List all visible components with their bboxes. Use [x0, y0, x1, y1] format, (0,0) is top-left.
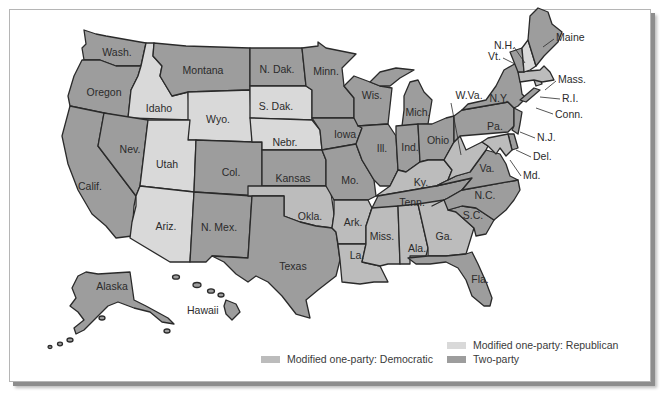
label-ri: R.I. [562, 92, 578, 104]
label-ind: Ind. [401, 141, 419, 153]
label-ga: Ga. [436, 230, 453, 242]
state-nj[interactable] [512, 108, 522, 134]
hawaii-island[interactable] [218, 293, 224, 297]
label-ny: N.Y. [489, 92, 508, 104]
label-ill: Ill. [377, 142, 388, 154]
label-conn: Conn. [555, 108, 583, 120]
label-del: Del. [533, 150, 552, 162]
legend-swatch-democratic [261, 356, 280, 363]
label-minn: Minn. [313, 65, 339, 77]
label-iowa: Iowa [334, 128, 356, 140]
label-md: Md. [523, 169, 541, 181]
label-mo: Mo. [341, 174, 359, 186]
label-idaho: Idaho [146, 102, 172, 114]
legend-label-republican: Modified one-party: Republican [473, 339, 618, 351]
legend-swatch-republican [447, 342, 466, 349]
label-la: La. [350, 249, 365, 261]
legend-two-party: Two-party [447, 353, 519, 365]
alaska-island [99, 316, 105, 320]
label-ariz: Ariz. [156, 220, 177, 232]
label-vt: Vt. [488, 50, 501, 62]
legend-label-two-party: Two-party [473, 353, 519, 365]
alaska-island [58, 342, 63, 346]
label-montana: Montana [183, 64, 224, 76]
hawaii-island[interactable] [173, 275, 180, 279]
leader-mass [545, 81, 556, 90]
legend-republican: Modified one-party: Republican [447, 339, 618, 351]
legend-swatch-two-party [447, 356, 466, 363]
label-oregon: Oregon [86, 86, 121, 98]
label-wash: Wash. [102, 46, 131, 58]
state-mich[interactable] [370, 68, 414, 86]
label-ala: Ala. [408, 242, 426, 254]
label-sdak: S. Dak. [259, 100, 293, 112]
label-texas: Texas [279, 260, 306, 272]
state-mich-lower[interactable] [402, 80, 432, 126]
label-hawaii: Hawaii [187, 304, 219, 316]
leader-md [510, 160, 521, 176]
label-wyo: Wyo. [206, 113, 230, 125]
alaska-island [164, 329, 170, 333]
hawaii-big-island[interactable] [224, 300, 240, 320]
legend-democratic: Modified one-party: Democratic [261, 353, 433, 365]
label-calif: Calif. [78, 180, 102, 192]
hawaii-island[interactable] [193, 283, 201, 288]
leader-nj [520, 132, 535, 138]
label-ndak: N. Dak. [259, 63, 294, 75]
leader-del [516, 150, 531, 157]
label-mich: Mich. [405, 106, 430, 118]
hawaii-island[interactable] [208, 289, 215, 293]
label-ohio: Ohio [427, 134, 449, 146]
label-kansas: Kansas [275, 172, 310, 184]
leader-conn [536, 108, 553, 114]
label-va: Va. [480, 162, 495, 174]
legend-label-democratic: Modified one-party: Democratic [287, 353, 433, 365]
label-pa: Pa. [487, 120, 503, 132]
label-nmex: N. Mex. [201, 221, 237, 233]
label-miss: Miss. [370, 230, 395, 242]
label-col: Col. [222, 166, 241, 178]
label-wva: W.Va. [455, 89, 482, 101]
label-nj: N.J. [537, 131, 556, 143]
alaska-island [67, 338, 73, 342]
state-utah[interactable] [140, 120, 196, 192]
label-okla: Okla. [298, 210, 323, 222]
label-nebr: Nebr. [272, 136, 297, 148]
us-party-map: Wash. Oregon Calif. Idaho Nev. Montana W… [0, 0, 661, 395]
label-utah: Utah [156, 158, 178, 170]
label-ky: Ky. [414, 176, 428, 188]
label-nc: N.C. [475, 189, 496, 201]
label-alaska: Alaska [96, 280, 128, 292]
label-nev: Nev. [120, 143, 141, 155]
label-fla: Fla. [471, 273, 489, 285]
leader-ri [540, 97, 560, 99]
label-tenn: Tenn. [399, 196, 425, 208]
label-ark: Ark. [344, 216, 363, 228]
label-wis: Wis. [362, 89, 382, 101]
label-mass: Mass. [558, 73, 586, 85]
label-maine: Maine [556, 31, 585, 43]
alaska-island [48, 346, 52, 349]
label-sc: S.C. [463, 209, 483, 221]
